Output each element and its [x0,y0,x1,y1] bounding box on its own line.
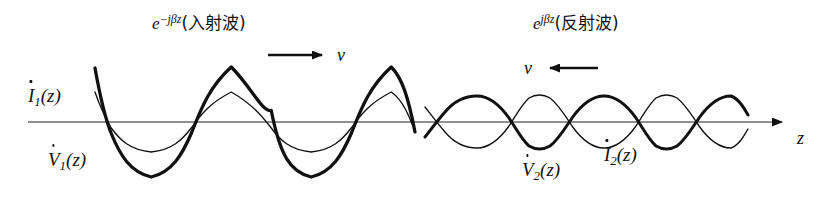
curve-label-v1: V1(z) [48,150,86,173]
curve-label-i2: I2(z) [604,145,637,168]
overdot-icon [52,144,55,147]
curve-label-i1: I1(z) [28,86,61,109]
incident-wave-caption: e−jβz(入射波) [152,9,246,34]
reflected-wave-caption: ejβz(反射波) [533,9,619,34]
reflected-paren: (反射波) [554,13,618,33]
overdot-icon [606,139,609,142]
velocity-label-forward: v [337,45,345,66]
reflected-base: e [533,14,541,33]
incident-paren: (入射波) [181,13,245,33]
wave-diagram-figure: e−jβz(入射波) ejβz(反射波) I1(z) V1(z) V2(z) I… [0,0,829,199]
reflected-exponent: jβz [541,12,555,26]
overdot-icon [30,80,33,83]
wave-diagram-canvas [0,0,829,199]
incident-base: e [152,14,160,33]
z-axis-label: z [797,128,804,149]
curve-label-v2: V2(z) [522,160,560,183]
overdot-icon [526,154,529,157]
incident-exponent: −jβz [160,12,182,26]
velocity-label-backward: v [524,58,532,79]
